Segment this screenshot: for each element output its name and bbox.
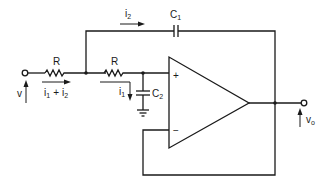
capacitor-c1-label: C1 xyxy=(170,9,181,21)
current-i1-label: i1 xyxy=(119,86,125,98)
opamp-minus-label: − xyxy=(173,125,179,136)
resistor-r2-label: R xyxy=(111,56,118,67)
capacitor-c2-label: C2 xyxy=(152,88,163,100)
resistor-r2 xyxy=(104,70,125,76)
wire-top-left xyxy=(86,31,174,73)
input-voltage-label: v xyxy=(17,88,22,99)
ground-icon xyxy=(137,110,149,116)
arrow-right-icon xyxy=(120,22,145,27)
arrow-right-icon xyxy=(42,80,71,85)
input-terminal xyxy=(22,70,28,76)
arrow-up-icon xyxy=(24,80,29,103)
arrow-down-icon xyxy=(100,82,133,101)
circuit-diagram: R R C2 C1 + − i2 i1+i2 i1 xyxy=(0,0,329,187)
current-sum-label: i1+i2 xyxy=(44,87,68,99)
opamp-triangle xyxy=(169,57,249,148)
current-i2-label: i2 xyxy=(125,8,131,20)
arrow-up-icon xyxy=(298,108,303,127)
opamp-plus-label: + xyxy=(173,70,179,81)
resistor-r1 xyxy=(45,70,66,76)
output-terminal xyxy=(301,100,307,106)
output-voltage-label: vo xyxy=(306,114,315,126)
resistor-r1-label: R xyxy=(53,56,60,67)
output-node xyxy=(273,101,277,105)
